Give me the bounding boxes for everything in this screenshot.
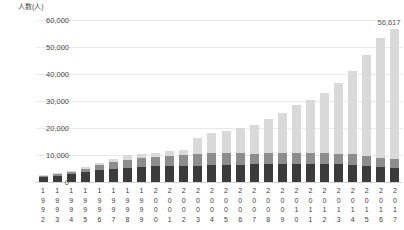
bar[interactable]	[390, 29, 399, 182]
x-tick-digit: 1	[309, 215, 313, 225]
bar-segment-segment-2	[320, 153, 329, 164]
bar-segment-segment-2	[250, 154, 259, 165]
x-tick-digit: 0	[266, 205, 270, 215]
bar[interactable]	[109, 159, 118, 182]
x-tick-digit: 1	[140, 186, 144, 196]
x-tick-digit: 2	[393, 186, 397, 196]
bar-segment-segment-3	[334, 83, 343, 154]
x-tick-digit: 9	[55, 196, 59, 206]
bar-segment-segment-1	[81, 172, 90, 182]
bar[interactable]	[193, 138, 202, 182]
bar[interactable]	[362, 55, 371, 182]
x-tick-digit: 9	[97, 205, 101, 215]
x-tick-digit: 1	[351, 205, 355, 215]
bar[interactable]	[348, 71, 357, 182]
bar[interactable]	[250, 125, 259, 182]
bar[interactable]	[376, 38, 385, 182]
x-tick-digit: 2	[41, 215, 45, 225]
x-tick-digit: 0	[210, 196, 214, 206]
x-axis-tick-label: 2005	[222, 186, 231, 224]
bar[interactable]	[278, 113, 287, 182]
x-axis-tick-label: 2006	[236, 186, 245, 224]
bar-segment-segment-2	[109, 162, 118, 169]
x-axis-tick-label: 2011	[306, 186, 315, 224]
x-tick-digit: 9	[140, 196, 144, 206]
bar-segment-segment-2	[348, 154, 357, 165]
bar[interactable]	[222, 131, 231, 182]
bar-segment-segment-1	[334, 164, 343, 182]
x-axis-tick-label: 2017	[390, 186, 399, 224]
x-tick-digit: 1	[55, 186, 59, 196]
bar[interactable]	[123, 155, 132, 182]
bar-segment-segment-2	[165, 156, 174, 166]
bar-segment-segment-3	[390, 29, 399, 159]
bar-segment-segment-3	[278, 113, 287, 153]
x-tick-digit: 4	[69, 215, 73, 225]
bar-segment-segment-2	[179, 155, 188, 166]
x-tick-digit: 0	[168, 205, 172, 215]
bar-segment-segment-3	[320, 93, 329, 154]
x-tick-digit: 9	[140, 205, 144, 215]
bar[interactable]	[179, 150, 188, 182]
x-axis-tick-label: 1997	[109, 186, 118, 224]
x-tick-digit: 2	[323, 186, 327, 196]
x-tick-digit: 2	[280, 186, 284, 196]
x-tick-digit: 0	[154, 196, 158, 206]
bar-segment-segment-2	[390, 159, 399, 168]
bar[interactable]	[264, 119, 273, 182]
y-axis-tick-label: 10,000	[9, 151, 69, 160]
y-axis-tick-label: 20,000	[9, 124, 69, 133]
x-tick-digit: 0	[351, 196, 355, 206]
x-tick-digit: 2	[252, 186, 256, 196]
x-tick-digit: 2	[196, 186, 200, 196]
x-tick-digit: 1	[393, 205, 397, 215]
bar[interactable]	[81, 167, 90, 182]
bar[interactable]	[306, 100, 315, 182]
y-axis-tick-label: 50,000	[9, 43, 69, 52]
bar-segment-segment-1	[236, 165, 245, 182]
bar[interactable]	[320, 93, 329, 182]
bar[interactable]	[334, 83, 343, 182]
x-tick-digit: 0	[252, 196, 256, 206]
x-tick-digit: 9	[126, 196, 130, 206]
x-tick-digit: 9	[126, 205, 130, 215]
x-tick-digit: 0	[266, 196, 270, 206]
x-tick-digit: 1	[111, 186, 115, 196]
x-tick-digit: 4	[351, 215, 355, 225]
x-tick-digit: 3	[337, 215, 341, 225]
x-tick-digit: 6	[97, 215, 101, 225]
bar[interactable]	[207, 133, 216, 182]
x-axis-tick-label: 1998	[123, 186, 132, 224]
bar[interactable]	[165, 151, 174, 182]
x-axis-tick-label: 1993	[53, 186, 62, 224]
bar-segment-segment-3	[292, 105, 301, 153]
bar-segment-segment-2	[236, 153, 245, 165]
x-axis-tick-label: 1996	[95, 186, 104, 224]
x-tick-digit: 1	[294, 205, 298, 215]
x-tick-digit: 2	[294, 186, 298, 196]
bar[interactable]	[95, 163, 104, 182]
bar-series-layer	[36, 20, 402, 182]
bar-segment-segment-1	[362, 166, 371, 182]
bar-segment-segment-1	[123, 168, 132, 182]
x-axis-tick-label: 2009	[278, 186, 287, 224]
x-tick-digit: 2	[309, 186, 313, 196]
x-axis-tick-label: 2008	[264, 186, 273, 224]
x-tick-digit: 0	[393, 196, 397, 206]
bar-segment-segment-2	[137, 158, 146, 167]
bar[interactable]	[236, 128, 245, 182]
bar-segment-segment-3	[376, 38, 385, 158]
x-tick-digit: 0	[154, 205, 158, 215]
stacked-bar-chart: 人数(人) 56,617 010,00020,00030,00040,00050…	[0, 0, 404, 230]
bar[interactable]	[292, 105, 301, 182]
bar[interactable]	[137, 154, 146, 182]
x-tick-digit: 1	[69, 186, 73, 196]
x-tick-digit: 0	[309, 196, 313, 206]
bar-segment-segment-1	[95, 170, 104, 182]
x-tick-digit: 8	[126, 215, 130, 225]
y-axis-tick-label: 40,000	[9, 70, 69, 79]
bar[interactable]	[151, 153, 160, 182]
x-tick-digit: 2	[154, 186, 158, 196]
bar-segment-segment-1	[264, 164, 273, 182]
x-axis-tick-label: 2004	[207, 186, 216, 224]
